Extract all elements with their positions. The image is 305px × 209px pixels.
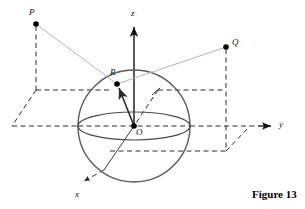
x-axis-dashed-upper [134, 90, 158, 126]
construction-rays [36, 24, 226, 84]
plane-edge-left-slant [12, 90, 36, 126]
plotted-points [33, 21, 229, 129]
point-label-R: R [110, 68, 116, 77]
radius-vector-O-to-R [119, 88, 134, 126]
x-axis-solid-through-sphere [104, 126, 134, 170]
geometry-diagram-svg [0, 0, 305, 209]
point-Q [223, 44, 229, 50]
point-label-Q: Q [232, 38, 239, 47]
point-P [33, 21, 39, 27]
point-R [114, 81, 120, 87]
axis-label-x: x [75, 190, 79, 199]
point-label-P: P [29, 8, 35, 17]
plane-edge-right-slant [226, 126, 250, 151]
axis-label-z: z [131, 9, 135, 18]
figure-canvas: z y x P Q R O Figure 13 [0, 0, 305, 209]
point-label-O: O [136, 128, 143, 137]
x-axis-back-tip [152, 88, 160, 95]
axis-label-y: y [279, 120, 283, 129]
ray-P-to-R [36, 24, 117, 84]
figure-caption: Figure 13 [252, 188, 297, 200]
